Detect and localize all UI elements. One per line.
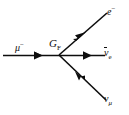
antineutrino-overline-bar: ν xyxy=(104,47,108,58)
antineutrino-e-arrowhead-icon xyxy=(83,51,92,59)
vertex-symbol: G xyxy=(49,37,57,49)
muon-arrow-tip-icon xyxy=(34,51,43,59)
label-neutrino-mu-subscript: μ xyxy=(108,99,112,107)
label-antineutrino-e-symbol: ν xyxy=(104,47,108,58)
feynman-diagram-figure: μ− GF e− νe νμ xyxy=(0,0,129,115)
label-antineutrino-e-subscript: e xyxy=(108,53,111,61)
neutrino-mu-line-group xyxy=(59,55,106,100)
label-vertex-coupling: GF xyxy=(49,38,61,52)
antineutrino-e-line-group xyxy=(59,51,105,59)
label-neutrino-mu: νμ xyxy=(104,94,112,107)
label-antineutrino-e: νe xyxy=(104,47,112,61)
electron-line-group xyxy=(59,13,107,55)
label-electron-charge: − xyxy=(111,5,115,13)
muon-line-group xyxy=(3,51,59,59)
electron-arrowhead-icon xyxy=(73,32,86,41)
label-muon-charge: − xyxy=(20,41,24,49)
label-electron: e− xyxy=(107,6,115,17)
label-muon: μ− xyxy=(15,42,24,53)
vertex-subscript: F xyxy=(57,44,61,52)
